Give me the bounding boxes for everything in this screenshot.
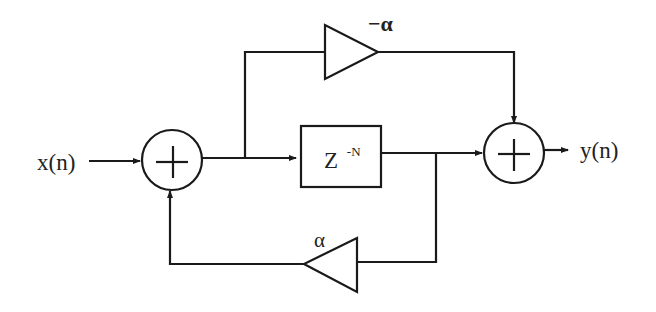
feedback-gain-triangle <box>304 238 357 292</box>
input-label: x(n) <box>37 150 75 175</box>
delay-exponent: -N <box>347 144 361 159</box>
block-diagram: x(n) y(n) −α α Z -N <box>0 0 656 312</box>
feedforward-to-output <box>378 52 514 123</box>
feedforward-gain-label: −α <box>368 11 394 36</box>
feedback-to-input <box>170 191 304 264</box>
feedforward-path <box>245 52 325 158</box>
delay-label: Z -N <box>324 144 361 173</box>
delay-base: Z <box>324 148 338 173</box>
output-label: y(n) <box>580 138 618 163</box>
feedback-gain-label: α <box>314 228 325 252</box>
feedback-path <box>357 153 436 262</box>
